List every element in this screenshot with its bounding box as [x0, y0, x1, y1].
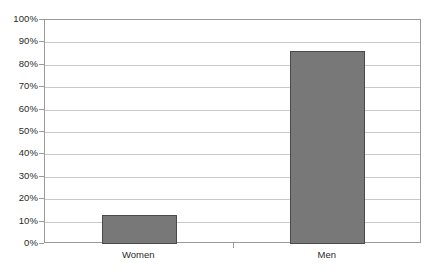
bar-men: [290, 51, 365, 244]
x-axis-tick-label: Men: [277, 249, 377, 260]
y-axis-tick-label: 10%: [0, 216, 38, 226]
y-axis-tick-label: 50%: [0, 126, 38, 136]
y-axis-tick-label: 20%: [0, 193, 38, 203]
bar-chart: 100%90%80%70%60%50%40%30%20%10%0% WomenM…: [0, 0, 441, 275]
y-axis: 100%90%80%70%60%50%40%30%20%10%0%: [0, 0, 38, 275]
y-axis-tick-label: 80%: [0, 59, 38, 69]
bar-women: [102, 215, 177, 244]
x-axis-tick-label: Women: [88, 249, 188, 260]
plot-area: [44, 19, 421, 243]
x-axis-tick-mark: [233, 243, 234, 248]
y-axis-tick-mark: [39, 243, 44, 244]
y-axis-tick-label: 90%: [0, 36, 38, 46]
y-axis-tick-label: 70%: [0, 81, 38, 91]
gridline: [45, 42, 420, 43]
y-axis-tick-label: 0%: [0, 238, 38, 248]
y-axis-tick-label: 30%: [0, 171, 38, 181]
y-axis-tick-label: 100%: [0, 14, 38, 24]
y-axis-tick-label: 60%: [0, 104, 38, 114]
y-axis-tick-label: 40%: [0, 148, 38, 158]
